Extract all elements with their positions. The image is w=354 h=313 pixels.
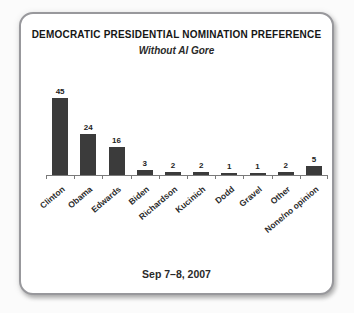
x-axis-labels: ClintonObamaEdwardsBidenRichardsonKucini… — [46, 177, 328, 256]
bar-value-label: 24 — [84, 124, 93, 132]
bar-column: 1 — [243, 71, 271, 175]
x-axis-label: Dodd — [213, 184, 236, 206]
bar-value-label: 2 — [284, 162, 288, 170]
bar-column: 5 — [300, 71, 328, 175]
x-axis-label: Biden — [127, 184, 152, 207]
bar — [52, 98, 68, 175]
bar-value-label: 1 — [255, 163, 259, 171]
x-axis-label: Edwards — [89, 184, 123, 214]
bar — [80, 134, 96, 175]
date-caption: Sep 7–8, 2007 — [21, 268, 332, 280]
bar — [137, 170, 153, 175]
bar — [165, 172, 181, 175]
x-axis-label: Clinton — [38, 184, 67, 210]
bar — [250, 173, 266, 175]
bar-chart: 4524163221125 ClintonObamaEdwardsBidenRi… — [46, 71, 328, 256]
poll-chart-card: DEMOCRATIC PRESIDENTIAL NOMINATION PREFE… — [19, 12, 334, 295]
x-axis-label: Kucinich — [174, 184, 208, 215]
bar-column: 3 — [131, 71, 159, 175]
bar-value-label: 5 — [312, 156, 316, 164]
page-background: DEMOCRATIC PRESIDENTIAL NOMINATION PREFE… — [0, 0, 354, 313]
bar-value-label: 2 — [199, 162, 203, 170]
bar-column: 2 — [187, 71, 215, 175]
bar-column: 2 — [159, 71, 187, 175]
bar — [221, 173, 237, 175]
bars-area: 4524163221125 — [46, 71, 328, 176]
bar-value-label: 3 — [142, 160, 146, 168]
bar-value-label: 45 — [56, 88, 65, 96]
bar — [306, 166, 322, 175]
bar-column: 16 — [102, 71, 130, 175]
bar-value-label: 16 — [112, 137, 121, 145]
bar-column: 2 — [272, 71, 300, 175]
x-axis-label: Other — [268, 184, 292, 206]
bar-column: 1 — [215, 71, 243, 175]
chart-subtitle: Without Al Gore — [21, 45, 332, 56]
bar — [278, 172, 294, 175]
bar-column: 24 — [74, 71, 102, 175]
x-axis-label: Gravel — [237, 184, 264, 209]
bar — [109, 147, 125, 175]
chart-title: DEMOCRATIC PRESIDENTIAL NOMINATION PREFE… — [21, 29, 332, 40]
bar-value-label: 2 — [171, 162, 175, 170]
bar-column: 45 — [46, 71, 74, 175]
bar — [193, 172, 209, 175]
bar-value-label: 1 — [227, 163, 231, 171]
